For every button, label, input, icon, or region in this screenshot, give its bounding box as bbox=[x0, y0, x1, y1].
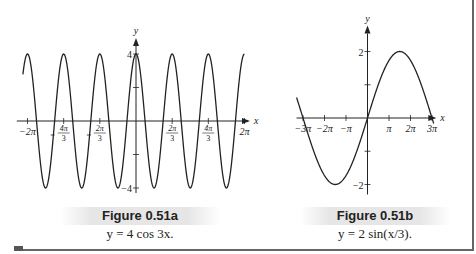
x-tick-label: 2π bbox=[405, 123, 416, 134]
svg-text:4π: 4π bbox=[60, 124, 69, 133]
x-axis-label: x bbox=[253, 115, 259, 126]
svg-text:3: 3 bbox=[206, 134, 210, 143]
x-tick-label: 2π3 bbox=[166, 124, 178, 143]
frame-right-border bbox=[472, 0, 474, 251]
caption-b-equation: y = 2 sin(x/3). bbox=[300, 226, 450, 242]
figure-page: xy−2π4π32π32π34π32π4−4 xy−3π−2π−ππ2π3π2−… bbox=[0, 0, 476, 254]
y-axis-arrow-icon bbox=[365, 26, 371, 34]
chart-a: xy−2π4π32π32π34π32π4−4 bbox=[17, 25, 259, 194]
y-tick-label: −4 bbox=[121, 183, 132, 194]
x-tick-label: 4π3 bbox=[202, 124, 214, 143]
caption-b-equation-text: y = 2 sin(x/3). bbox=[338, 226, 412, 241]
x-axis-label: x bbox=[439, 112, 445, 123]
y-axis-arrow-icon bbox=[133, 38, 139, 46]
x-tick-label: −π bbox=[340, 123, 353, 134]
svg-text:3: 3 bbox=[98, 134, 102, 143]
x-tick-label: −2π bbox=[316, 123, 334, 134]
caption-a-equation: y = 4 cos 3x. bbox=[60, 226, 220, 242]
caption-a-box: Figure 0.51a bbox=[60, 207, 220, 225]
x-tick-label: −2π bbox=[19, 126, 37, 137]
y-tick-label: 4 bbox=[127, 49, 132, 60]
caption-a-title: Figure 0.51a bbox=[60, 208, 220, 223]
y-tick-label: 2 bbox=[359, 47, 364, 58]
chart-b: xy−3π−2π−ππ2π3π2−2 bbox=[295, 13, 446, 195]
caption-b-box: Figure 0.51b bbox=[300, 207, 450, 225]
y-axis-label: y bbox=[133, 25, 139, 36]
caption-a-equation-text: y = 4 cos 3x. bbox=[107, 226, 174, 241]
y-tick-label: −2 bbox=[353, 180, 364, 191]
y-axis-label: y bbox=[364, 13, 370, 24]
x-tick-label: 3π bbox=[426, 123, 438, 134]
frame-bottom-border bbox=[14, 249, 474, 251]
x-tick-label: 2π bbox=[239, 126, 250, 137]
x-tick-label: −3π bbox=[295, 123, 313, 134]
x-tick-label: π bbox=[386, 123, 392, 134]
svg-text:2π: 2π bbox=[96, 124, 105, 133]
svg-text:4π: 4π bbox=[204, 124, 213, 133]
svg-text:3: 3 bbox=[170, 134, 174, 143]
svg-text:3: 3 bbox=[62, 134, 66, 143]
x-axis-arrow-icon bbox=[242, 118, 250, 124]
svg-text:2π: 2π bbox=[168, 124, 177, 133]
caption-b-title: Figure 0.51b bbox=[300, 208, 450, 223]
frame-corner-marker bbox=[14, 246, 23, 251]
